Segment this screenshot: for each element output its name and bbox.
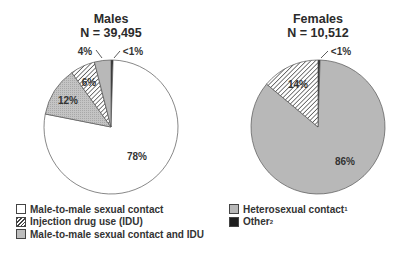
slice-label: 14% [288,79,308,90]
slice-label: 4% [78,46,93,57]
legend-item-other: Other2 [229,216,348,229]
legend-item-msm: Male-to-male sexual contact [16,203,204,216]
black-swatch-icon [229,217,239,227]
legend-item-msm-idu: Male-to-male sexual contact and IDU [16,228,204,241]
slice-label: <1% [331,46,351,57]
hatch-swatch-icon [16,217,26,227]
legend-item-heterosexual: Heterosexual contact1 [229,203,348,216]
legend-left: Male-to-male sexual contact Injection dr… [16,203,204,241]
dotted-gray-swatch-icon [16,229,26,239]
gray-swatch-icon [229,204,239,214]
legend-item-idu: Injection drug use (IDU) [16,216,204,229]
white-swatch-icon [16,204,26,214]
legend-right: Heterosexual contact1 Other2 [229,203,348,228]
females-pie: 86%14%<1% [251,46,385,194]
males-pie: 78%12%6%4%<1% [44,46,178,194]
slice-label: 6% [82,77,97,88]
slice-label: <1% [123,46,143,57]
slice-label: 86% [335,156,355,167]
slice-label: 12% [58,95,78,106]
slice-label: 78% [127,151,147,162]
